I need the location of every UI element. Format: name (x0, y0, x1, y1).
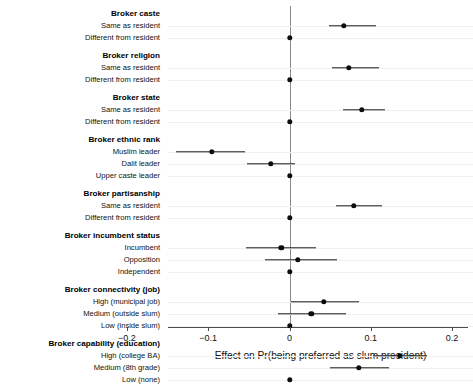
point-estimate (209, 149, 214, 154)
gridline (168, 272, 473, 273)
row-label: Same as resident (101, 202, 160, 210)
gridline (168, 206, 473, 207)
gridline (168, 248, 473, 249)
x-axis-line (168, 327, 468, 328)
row-label: Same as resident (101, 106, 160, 114)
gridline (168, 122, 473, 123)
row-label: Same as resident (101, 22, 160, 30)
gridline (168, 326, 473, 327)
confidence-interval-bar (329, 25, 375, 26)
group-heading: Broker religion (102, 52, 160, 60)
row-label: Low (none) (122, 376, 160, 384)
gridline (168, 164, 473, 165)
group-heading: Broker state (113, 94, 160, 102)
confidence-interval-bar (332, 67, 379, 68)
gridline (168, 68, 473, 69)
point-estimate (287, 269, 292, 274)
row-label: Upper caste leader (96, 172, 160, 180)
point-estimate (346, 65, 351, 70)
row-label: Dalit leader (122, 160, 160, 168)
row-label: Different from resident (85, 214, 160, 222)
x-axis-tick-label: 0 (287, 333, 292, 343)
row-label: Low (inside slum) (101, 322, 160, 330)
group-heading: Broker caste (111, 10, 160, 18)
point-estimate (341, 23, 346, 28)
point-estimate (356, 365, 361, 370)
x-axis-tick-label: 0.2 (446, 333, 459, 343)
gridline (168, 26, 473, 27)
row-label: Incumbent (125, 244, 160, 252)
gridline (168, 176, 473, 177)
point-estimate (287, 173, 292, 178)
row-label: Different from resident (85, 34, 160, 42)
point-estimate (359, 107, 364, 112)
row-label: High (college BA) (101, 352, 160, 360)
row-label: Independent (118, 268, 160, 276)
zero-reference-line (290, 6, 291, 328)
x-axis-tick-label: −0.2 (118, 333, 136, 343)
row-label: Opposition (124, 256, 160, 264)
gridline (168, 218, 473, 219)
row-label: Muslim leader (113, 148, 160, 156)
gridline (168, 80, 473, 81)
gridline (168, 110, 473, 111)
plot-panel: Effect on Pr(being preferred as slum pre… (168, 0, 473, 334)
gridline (168, 368, 473, 369)
row-label: High (municipal job) (93, 298, 160, 306)
gridline (168, 380, 473, 381)
gridline (168, 38, 473, 39)
group-heading: Broker ethnic rank (88, 136, 160, 144)
row-label: Different from resident (85, 76, 160, 84)
group-heading: Broker connectivity (job) (65, 286, 160, 294)
point-estimate (287, 119, 292, 124)
x-axis-tick (127, 327, 128, 331)
point-estimate (295, 257, 300, 262)
row-label-column: Broker casteSame as residentDifferent fr… (0, 0, 166, 334)
gridline (168, 356, 473, 357)
x-axis-tick (290, 327, 291, 331)
row-label: Different from resident (85, 118, 160, 126)
point-estimate (287, 35, 292, 40)
x-axis-tick (371, 327, 372, 331)
point-estimate (321, 299, 326, 304)
row-label: Medium (8th grade) (94, 364, 160, 372)
point-estimate (351, 203, 356, 208)
group-heading: Broker capability (education) (48, 340, 160, 348)
group-heading: Broker incumbent status (65, 232, 160, 240)
point-estimate (309, 311, 314, 316)
row-label: Same as resident (101, 64, 160, 72)
x-axis-tick-label: −0.1 (199, 333, 217, 343)
x-axis-tick (452, 327, 453, 331)
point-estimate (287, 77, 292, 82)
point-estimate (287, 377, 292, 382)
point-estimate (268, 161, 273, 166)
x-axis-tick (208, 327, 209, 331)
point-estimate (279, 245, 284, 250)
x-axis-tick-label: 0.1 (364, 333, 377, 343)
row-label: Medium (outside slum) (83, 310, 160, 318)
confidence-interval-bar (336, 205, 382, 206)
point-estimate (287, 215, 292, 220)
group-heading: Broker partisanship (84, 190, 160, 198)
confidence-interval-bar (265, 259, 337, 260)
